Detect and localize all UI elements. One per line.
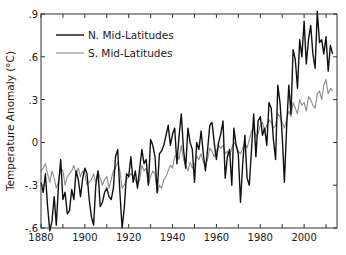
y-tick-label: -.3 — [25, 180, 38, 191]
x-tick-label: 1940 — [160, 232, 185, 243]
plot-lines — [41, 11, 333, 231]
plot-frame — [41, 14, 337, 228]
axis-ticks: 1880190019201940196019802000.9.6.30-.3-.… — [25, 9, 337, 243]
legend: N. Mid-Latitudes S. Mid-Latitudes — [56, 29, 174, 59]
y-tick-label: .9 — [28, 9, 38, 20]
x-tick-label: 1900 — [72, 232, 97, 243]
temperature-anomaly-chart: 1880190019201940196019802000.9.6.30-.3-.… — [0, 0, 346, 255]
x-tick-label: 2000 — [291, 232, 316, 243]
legend-label-north: N. Mid-Latitudes — [88, 29, 174, 41]
y-tick-label: -.6 — [25, 223, 38, 234]
series-line-north — [41, 11, 333, 231]
x-tick-label: 1920 — [116, 232, 141, 243]
y-axis-title: Temperature Anomaly (°C) — [4, 51, 16, 192]
y-tick-label: .3 — [28, 95, 38, 106]
y-tick-label: .6 — [28, 52, 38, 63]
y-tick-label: 0 — [32, 137, 38, 148]
x-tick-label: 1980 — [248, 232, 273, 243]
legend-label-south: S. Mid-Latitudes — [88, 47, 172, 59]
x-tick-label: 1960 — [204, 232, 229, 243]
